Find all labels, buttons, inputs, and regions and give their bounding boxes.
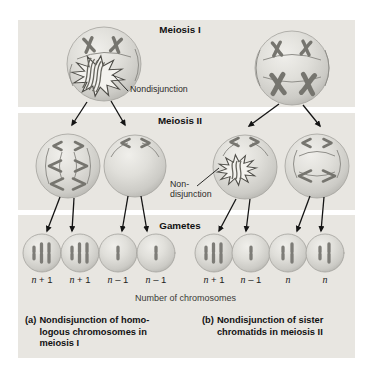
gamete-cell-2 bbox=[61, 234, 99, 272]
meiosis1-cell-normal bbox=[255, 31, 329, 105]
gamete-label-7: n bbox=[268, 274, 308, 285]
meiosis2-title: Meiosis II bbox=[0, 115, 360, 126]
gamete-cells bbox=[23, 234, 344, 272]
nondisjunction-label-meiosis1: Nondisjunction bbox=[130, 85, 188, 95]
gamete-cell-3 bbox=[99, 234, 137, 272]
gamete-label-3: n – 1 bbox=[98, 274, 138, 285]
meiosis2-cell-4 bbox=[285, 134, 349, 198]
gamete-label-5: n + 1 bbox=[194, 274, 234, 285]
gamete-label-1: n + 1 bbox=[22, 274, 62, 285]
nondisjunction-label-line2: disjunction bbox=[170, 190, 212, 200]
gamete-cell-5 bbox=[195, 234, 233, 272]
caption-b-text: Nondisjunction of sister chromatids in m… bbox=[217, 315, 323, 338]
gamete-label-6: n – 1 bbox=[231, 274, 271, 285]
meiosis2-cell-1 bbox=[36, 134, 100, 198]
gamete-label-2: n + 1 bbox=[60, 274, 100, 285]
number-of-chromosomes-label: Number of chromosomes bbox=[0, 293, 371, 303]
caption-b: (b) Nondisjunction of sister chromatids … bbox=[202, 315, 364, 338]
gamete-cell-1 bbox=[23, 234, 61, 272]
gamete-cell-8 bbox=[306, 234, 344, 272]
gametes-title: Gametes bbox=[0, 220, 360, 231]
gamete-cell-4 bbox=[137, 234, 175, 272]
caption-a: (a) Nondisjunction of homo- logous chrom… bbox=[25, 315, 183, 350]
nondisjunction-label-meiosis2: Non- disjunction bbox=[170, 180, 212, 200]
meiosis2-cell-nondisjunction bbox=[213, 135, 277, 199]
meiosis1-title: Meiosis I bbox=[0, 24, 360, 35]
gamete-cell-6 bbox=[232, 234, 270, 272]
caption-b-tag: (b) bbox=[202, 315, 214, 338]
gamete-label-8: n bbox=[305, 274, 345, 285]
gamete-cell-7 bbox=[269, 234, 307, 272]
caption-a-text: Nondisjunction of homo- logous chromosom… bbox=[39, 315, 149, 350]
gamete-label-4: n – 1 bbox=[136, 274, 176, 285]
caption-a-tag: (a) bbox=[25, 315, 36, 350]
meiosis2-cell-2 bbox=[104, 135, 166, 197]
